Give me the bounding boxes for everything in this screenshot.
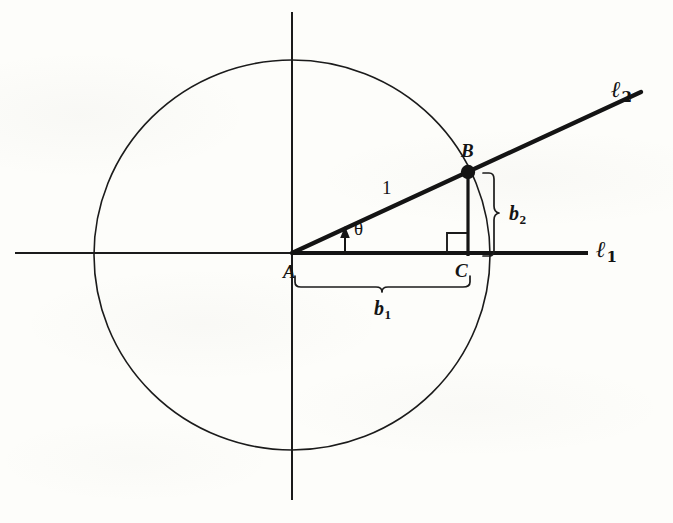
label-l2-ell: ℓ bbox=[611, 75, 621, 102]
label-l1-subscript: 1 bbox=[606, 248, 617, 266]
brace-b1 bbox=[295, 276, 470, 292]
label-line-l2: ℓ2 bbox=[611, 77, 631, 100]
label-point-b: B bbox=[461, 141, 474, 160]
label-l1-ell: ℓ bbox=[596, 235, 606, 262]
label-b2-subscript: 2 bbox=[520, 212, 527, 227]
label-angle-theta: θ bbox=[354, 219, 363, 238]
label-hypotenuse-length: 1 bbox=[382, 178, 392, 197]
label-l2-subscript: 2 bbox=[621, 88, 632, 106]
geometry-figure: A B C 1 θ b1 b2 ℓ1 ℓ2 bbox=[0, 0, 673, 523]
label-base-length-b1: b1 bbox=[374, 298, 391, 318]
label-b1-subscript: 1 bbox=[385, 307, 392, 322]
label-line-l1: ℓ1 bbox=[596, 237, 616, 260]
label-b1-base: b bbox=[374, 297, 384, 319]
label-height-length-b2: b2 bbox=[509, 203, 526, 223]
label-point-a: A bbox=[283, 262, 296, 281]
right-angle-marker bbox=[447, 233, 467, 253]
diagram-canvas bbox=[0, 0, 673, 523]
label-b2-base: b bbox=[509, 202, 519, 224]
point-b-dot bbox=[461, 165, 475, 179]
label-point-c: C bbox=[455, 261, 468, 280]
